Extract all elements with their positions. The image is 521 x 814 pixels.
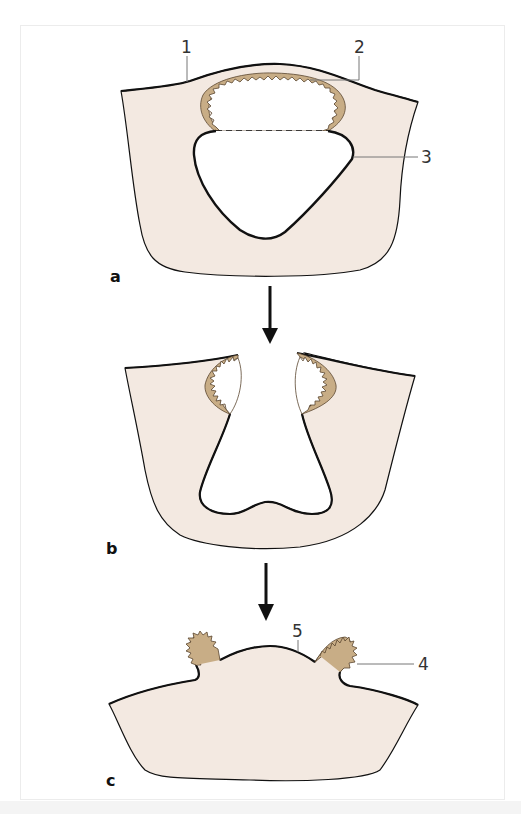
- development-diagram: 1 2 3 a b: [0, 0, 521, 814]
- callout-1: 1: [181, 37, 192, 57]
- panel-a: 1 2 3 a: [110, 37, 432, 286]
- callout-2: 2: [354, 37, 365, 57]
- amniotic-teeth-c-left: [186, 631, 220, 665]
- panel-c-tissue: [109, 640, 418, 781]
- callout-4: 4: [418, 654, 429, 674]
- amniotic-cavity: [207, 76, 338, 131]
- panel-b-tissue: [125, 353, 415, 549]
- panel-b: b: [106, 353, 415, 558]
- panel-label-b: b: [106, 539, 117, 558]
- panel-c: 5 4 c: [106, 621, 429, 790]
- callout-3: 3: [421, 147, 432, 167]
- arrow-b-to-c: [258, 563, 274, 621]
- panel-label-a: a: [110, 267, 121, 286]
- arrow-a-to-b: [262, 286, 278, 344]
- callout-5: 5: [292, 621, 303, 641]
- panel-label-c: c: [106, 771, 115, 790]
